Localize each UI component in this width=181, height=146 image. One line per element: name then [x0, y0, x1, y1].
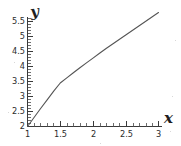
x-tick-label: 2.5 [120, 129, 133, 139]
x-tick-label: 2 [91, 129, 96, 139]
y-tick-label: 2.5 [12, 106, 25, 116]
x-tick-label: 3 [156, 129, 161, 139]
y-tick-label: 5 [20, 31, 25, 41]
y-tick-label: 4 [20, 61, 25, 71]
y-tick-label: 3.5 [12, 76, 25, 86]
y-tick-label: 5.5 [12, 16, 25, 26]
y-tick-label: 3 [20, 91, 25, 101]
x-axis-label: x [163, 109, 174, 127]
x-tick-label: 1 [25, 129, 30, 139]
y-tick-label: 4.5 [12, 46, 25, 56]
chart-figure: 2 2.5 3 3.5 4 4.5 5 5.5 [0, 0, 181, 146]
line-chart-svg: 2 2.5 3 3.5 4 4.5 5 5.5 [0, 0, 181, 146]
x-tick-label: 1.5 [54, 129, 67, 139]
